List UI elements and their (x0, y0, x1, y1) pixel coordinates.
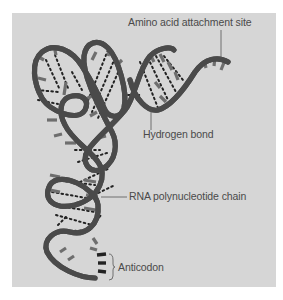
anticodon-bars (97, 254, 106, 272)
label-amino-acid-attachment-site: Amino acid attachment site (128, 16, 251, 28)
trna-illustration (0, 0, 283, 300)
label-rna-polynucleotide-chain: RNA polynucleotide chain (129, 190, 246, 202)
label-anticodon: Anticodon (118, 261, 164, 273)
label-hydrogen-bond: Hydrogen bond (143, 128, 214, 140)
